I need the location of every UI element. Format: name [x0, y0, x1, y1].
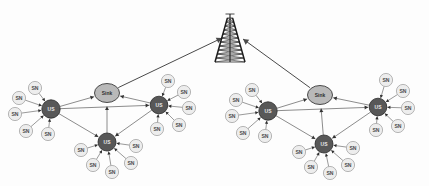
sensor-node-label: SN — [307, 164, 314, 170]
sensor-node[interactable]: SN — [379, 73, 392, 86]
sensor-node-label: SN — [261, 133, 268, 139]
backbone-arrowhead — [333, 97, 337, 101]
sensor-link-arrowhead — [380, 95, 383, 98]
sensor-node-label: SN — [382, 77, 389, 83]
sensor-node-label: SN — [127, 160, 134, 166]
sensor-node-label: SN — [31, 85, 38, 91]
cluster-backbone-link — [277, 99, 307, 108]
sensor-node[interactable]: SN — [105, 165, 118, 178]
sensor-node[interactable]: SN — [161, 74, 174, 87]
sensor-node-label: SN — [248, 87, 255, 93]
sensor-node[interactable]: SN — [245, 83, 258, 96]
cluster-head-node[interactable]: US — [98, 133, 116, 151]
sensor-node[interactable]: SN — [86, 158, 99, 171]
sink-node-label: Sink — [102, 91, 113, 96]
sensor-node-label: SN — [175, 122, 182, 128]
sensor-node-label: SN — [394, 123, 401, 129]
sensor-node[interactable]: SN — [396, 84, 409, 97]
cluster-backbone-link — [59, 114, 98, 137]
sensor-link-arrowhead — [387, 106, 390, 109]
sensor-node-label: SN — [239, 130, 246, 136]
cluster-head-label: US — [375, 104, 383, 110]
backbone-arrowhead — [146, 104, 150, 108]
sensor-node-label: SN — [15, 95, 22, 101]
cluster-backbone-link — [276, 116, 315, 139]
sensor-node[interactable]: SN — [346, 141, 359, 154]
sensor-node[interactable]: SN — [225, 109, 238, 122]
network-topology-figure: USUSUSSNSNSNSNSNSNSNSNSNSNSNSNSNSNSNSink… — [0, 0, 429, 186]
sensor-link-arrowhead — [42, 98, 45, 101]
sensor-node-label: SN — [89, 162, 96, 168]
uplink-arrowhead — [243, 39, 249, 45]
cluster-head-node[interactable]: US — [42, 100, 60, 118]
sensor-node[interactable]: SN — [229, 93, 242, 106]
sensor-node[interactable]: SN — [124, 156, 137, 169]
cluster-head-label: US — [104, 139, 112, 145]
uplink-layer — [118, 38, 310, 88]
node-layer: USUSUSSNSNSNSNSNSNSNSNSNSNSNSNSNSNSNSink… — [8, 73, 414, 179]
cluster-head-label: US — [265, 108, 273, 114]
backbone-arrowhead — [115, 133, 119, 137]
backbone-arrowhead — [90, 96, 94, 100]
sensor-node[interactable]: SN — [401, 101, 414, 114]
sensor-node[interactable]: SN — [172, 118, 185, 131]
sink-node[interactable]: Sink — [308, 86, 333, 105]
sensor-link-arrowhead — [375, 116, 378, 119]
sensor-node[interactable]: SN — [12, 91, 25, 104]
sensor-node[interactable]: SN — [41, 127, 54, 140]
sensor-node[interactable]: SN — [8, 107, 21, 120]
cluster-backbone-link — [277, 107, 368, 110]
sensor-node-label: SN — [108, 169, 115, 175]
sink-to-tower-uplink — [243, 39, 310, 88]
cluster-head-node[interactable]: US — [259, 102, 277, 120]
sensor-node[interactable]: SN — [292, 145, 305, 158]
sensor-node-label: SN — [372, 127, 379, 133]
sensor-node[interactable]: SN — [369, 123, 382, 136]
sensor-node-label: SN — [185, 105, 192, 111]
sensor-link-arrowhead — [168, 105, 171, 108]
cluster-head-label: US — [156, 102, 164, 108]
sensor-node[interactable]: SN — [304, 160, 317, 173]
cluster-head-node[interactable]: US — [369, 98, 387, 116]
sensor-node-label: SN — [180, 89, 187, 95]
backbone-arrowhead — [303, 98, 307, 102]
sensor-node[interactable]: SN — [129, 139, 142, 152]
sensor-node-label: SN — [399, 88, 406, 94]
backbone-arrowhead — [332, 135, 336, 139]
cluster-backbone-link — [60, 105, 149, 108]
sensor-node[interactable]: SN — [258, 129, 271, 142]
cluster-backbone-link — [120, 96, 150, 103]
sensor-node[interactable]: SN — [323, 166, 336, 179]
sensor-node[interactable]: SN — [177, 85, 190, 98]
sensor-node[interactable]: SN — [182, 101, 195, 114]
sensor-node[interactable]: SN — [19, 124, 32, 137]
sensor-link-arrowhead — [94, 144, 97, 147]
sensor-node-label: SN — [295, 149, 302, 155]
cluster-head-node[interactable]: US — [315, 135, 333, 153]
sensor-node-label: SN — [77, 147, 84, 153]
sensor-node-label: SN — [11, 111, 18, 117]
sensor-node[interactable]: SN — [28, 81, 41, 94]
sensor-link-arrowhead — [325, 153, 328, 156]
sensor-node-label: SN — [228, 113, 235, 119]
sensor-node-label: SN — [344, 162, 351, 168]
sensor-node[interactable]: SN — [391, 119, 404, 132]
backbone-arrowhead — [120, 95, 124, 99]
sensor-node-label: SN — [132, 143, 139, 149]
sensor-node[interactable]: SN — [74, 143, 87, 156]
sensor-node[interactable]: SN — [236, 126, 249, 139]
backbone-arrowhead — [365, 106, 369, 110]
network-diagram-canvas: USUSUSSNSNSNSNSNSNSNSNSNSNSNSNSNSNSNSink… — [0, 0, 429, 186]
cluster-head-node[interactable]: US — [150, 96, 168, 114]
cluster-backbone-link — [115, 110, 152, 136]
sensor-node-label: SN — [22, 128, 29, 134]
sensor-node[interactable]: SN — [150, 122, 163, 135]
cluster-backbone-link — [332, 112, 370, 138]
cluster-backbone-link — [333, 98, 369, 105]
sensor-node-label: SN — [326, 170, 333, 176]
sensor-link-arrowhead — [107, 151, 110, 154]
sink-node[interactable]: Sink — [95, 84, 120, 103]
sensor-link-arrowhead — [259, 100, 262, 103]
sensor-node[interactable]: SN — [341, 158, 354, 171]
sink-node-label: Sink — [315, 93, 326, 98]
